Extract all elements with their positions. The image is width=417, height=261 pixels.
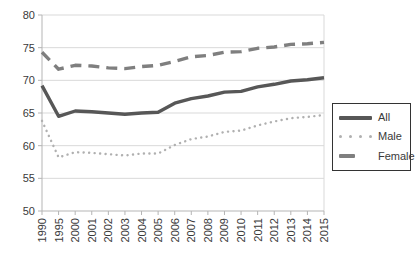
y-tick-label-65: 65 <box>23 107 35 119</box>
x-tick-label-1990: 1990 <box>36 218 48 242</box>
x-tick-label-2004: 2004 <box>136 218 148 242</box>
series-line-all <box>42 78 324 117</box>
y-tick-label-75: 75 <box>23 42 35 54</box>
x-tick-label-2005: 2005 <box>152 218 164 242</box>
legend: All Male Female <box>332 103 411 171</box>
x-tick-label-2015: 2015 <box>318 218 330 242</box>
legend-item-all: All <box>339 112 404 123</box>
y-tick-label-50: 50 <box>23 205 35 217</box>
x-tick-label-2006: 2006 <box>169 218 181 242</box>
series-line-male <box>42 115 324 157</box>
x-tick-label-2010: 2010 <box>235 218 247 242</box>
x-tick-label-1995: 1995 <box>53 218 65 242</box>
x-tick-label-2011: 2011 <box>252 218 264 242</box>
x-tick-label-2000: 2000 <box>69 218 81 242</box>
x-tick-label-2002: 2002 <box>102 218 114 242</box>
y-tick-label-55: 55 <box>23 172 35 184</box>
legend-swatch-male-dots <box>339 135 372 138</box>
legend-swatch-female-dash <box>339 154 355 158</box>
legend-swatch-all-line <box>339 116 372 120</box>
x-tick-label-2013: 2013 <box>285 218 297 242</box>
series-line-female <box>42 42 324 69</box>
y-tick-label-60: 60 <box>23 140 35 152</box>
x-tick-label-2012: 2012 <box>268 218 280 242</box>
line-chart: 5055606570758019901995200020012002200320… <box>0 0 417 261</box>
legend-label-female: Female <box>378 151 415 162</box>
legend-item-female: Female <box>339 151 404 162</box>
x-tick-label-2001: 2001 <box>86 218 98 242</box>
y-tick-label-70: 70 <box>23 74 35 86</box>
x-tick-label-2003: 2003 <box>119 218 131 242</box>
x-tick-label-2014: 2014 <box>301 218 313 242</box>
legend-label-all: All <box>378 112 390 123</box>
x-tick-label-2007: 2007 <box>185 218 197 242</box>
x-tick-label-2009: 2009 <box>218 218 230 242</box>
y-tick-label-80: 80 <box>23 9 35 21</box>
legend-label-male: Male <box>378 131 402 142</box>
legend-item-male: Male <box>339 131 404 142</box>
x-tick-label-2008: 2008 <box>202 218 214 242</box>
